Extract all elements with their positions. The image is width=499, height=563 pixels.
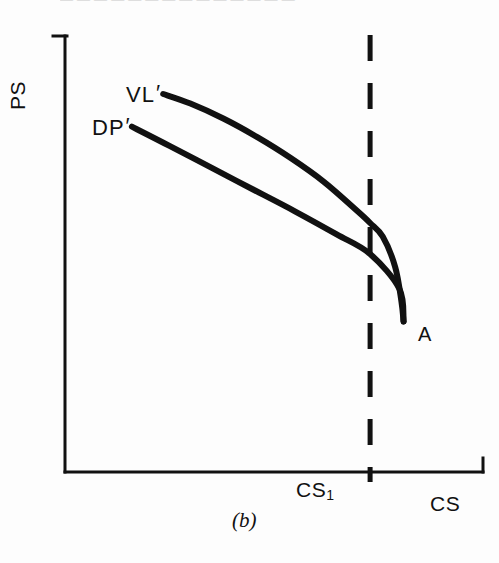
- y-axis-label: PS: [6, 81, 30, 110]
- cs1-tick-label: CS1: [296, 478, 334, 503]
- dp-prime-mark: ′: [125, 113, 131, 138]
- cs1-tick-base: CS: [296, 478, 326, 501]
- x-axis: [65, 458, 483, 472]
- figure-canvas: [0, 0, 499, 563]
- dp-label-text: DP: [92, 115, 125, 140]
- vl-prime-curve-label: VL′: [126, 80, 161, 108]
- point-a-label: A: [418, 323, 432, 346]
- y-axis: [53, 36, 67, 472]
- vl-prime-mark: ′: [155, 80, 161, 105]
- cs1-tick-subscript: 1: [326, 487, 334, 503]
- x-axis-label: CS: [430, 492, 460, 516]
- dp-prime-curve-label: DP′: [92, 113, 131, 141]
- figure-caption: (b): [232, 508, 257, 533]
- vl-label-text: VL: [126, 82, 155, 107]
- figure-page: — — — — — — — — — — — — — — PS CS CS1 VL…: [0, 0, 499, 563]
- dp-prime-curve: [132, 127, 404, 322]
